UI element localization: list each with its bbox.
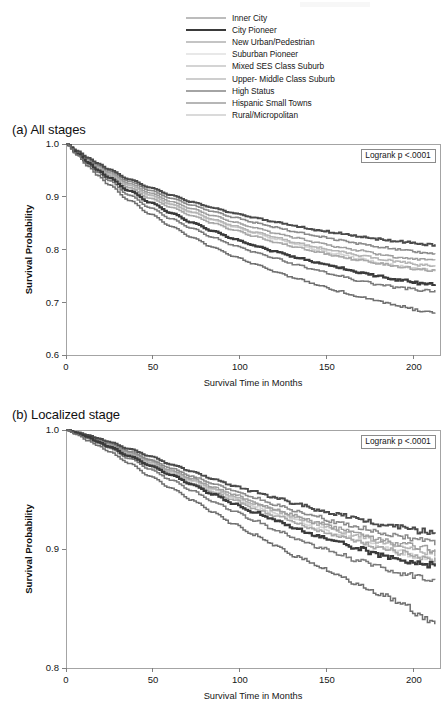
panel-a-title: (a) All stages (12, 122, 86, 137)
legend-item: High Status (186, 85, 426, 97)
panel-b-title: (b) Localized stage (12, 407, 120, 422)
legend-item: Rural/Micropolitan (186, 109, 426, 121)
legend-item-label: Upper- Middle Class Suburb (226, 73, 335, 85)
y-axis-title: Survival Probability (23, 204, 34, 294)
legend-item-label: Inner City (226, 12, 267, 24)
x-tick-label: 100 (232, 674, 248, 685)
legend-item: Suburban Pioneer (186, 48, 426, 60)
x-tick-label: 0 (63, 361, 68, 372)
x-tick-label: 100 (232, 361, 248, 372)
legend-item: Mixed SES Class Suburb (186, 60, 426, 72)
legend-item: Upper- Middle Class Suburb (186, 72, 426, 84)
x-tick-label: 50 (148, 361, 159, 372)
logrank-annotation-text: Logrank p <.0001 (365, 150, 431, 160)
y-tick-label: 1.0 (46, 424, 59, 435)
legend-item-label: Suburban Pioneer (226, 48, 298, 60)
scan-artifact (300, 2, 370, 7)
legend-line-swatch (186, 48, 226, 60)
x-axis-title: Survival Time in Months (204, 691, 303, 701)
legend-item-label: Hispanic Small Towns (226, 97, 312, 109)
legend-item: Inner City (186, 12, 426, 24)
y-tick-label: 0.6 (46, 349, 59, 360)
legend-item-label: Rural/Micropolitan (226, 109, 298, 121)
legend-line-swatch (186, 60, 226, 72)
y-axis-title: Survival Probability (23, 504, 34, 594)
legend: Inner CityCity PioneerNew Urban/Pedestri… (186, 12, 426, 121)
x-tick-label: 150 (319, 361, 335, 372)
y-tick-label: 0.8 (46, 244, 59, 255)
legend-item-label: New Urban/Pedestrian (226, 36, 314, 48)
legend-line-swatch (186, 73, 226, 85)
x-tick-label: 50 (148, 674, 159, 685)
legend-line-swatch (186, 97, 226, 109)
legend-line-swatch (186, 109, 226, 121)
chart-a: 0.60.70.80.91.0050100150200Survival Prob… (0, 138, 448, 403)
x-tick-label: 0 (63, 674, 68, 685)
legend-item-label: Mixed SES Class Suburb (226, 60, 324, 72)
legend-item: City Pioneer (186, 24, 426, 36)
y-tick-label: 0.9 (46, 543, 59, 554)
legend-item: Hispanic Small Towns (186, 97, 426, 109)
legend-item-label: High Status (226, 85, 274, 97)
survival-curve (66, 144, 435, 313)
legend-line-swatch (186, 85, 226, 97)
legend-item: New Urban/Pedestrian (186, 36, 426, 48)
x-axis-title: Survival Time in Months (204, 378, 303, 388)
legend-item-label: City Pioneer (226, 24, 277, 36)
plot-localized-stage: 0.80.91.0050100150200Survival Probabilit… (0, 424, 448, 716)
chart-b: 0.80.91.0050100150200Survival Probabilit… (0, 424, 448, 716)
y-tick-label: 0.9 (46, 191, 59, 202)
y-tick-label: 0.7 (46, 297, 59, 308)
legend-line-swatch (186, 24, 226, 36)
logrank-annotation-text: Logrank p <.0001 (365, 436, 431, 446)
legend-line-swatch (186, 12, 226, 24)
y-tick-label: 1.0 (46, 138, 59, 149)
plot-all-stages: 0.60.70.80.91.0050100150200Survival Prob… (0, 138, 448, 407)
x-tick-label: 200 (406, 361, 422, 372)
legend-line-swatch (186, 36, 226, 48)
x-tick-label: 150 (319, 674, 335, 685)
x-tick-label: 200 (406, 674, 422, 685)
y-tick-label: 0.8 (46, 662, 59, 673)
figure-survival-curves: Inner CityCity PioneerNew Urban/Pedestri… (0, 0, 448, 716)
